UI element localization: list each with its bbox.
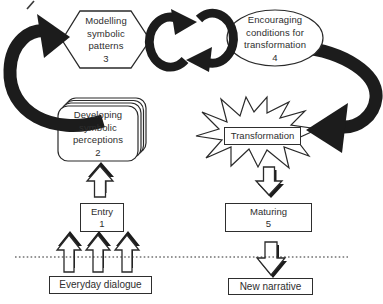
corner-mark [27,1,34,9]
label-line: perceptions [58,134,138,147]
entry-number: 1 [81,218,123,230]
up-arrow-entry-to-developing [87,162,114,197]
label-line: conditions for [227,27,323,40]
label-line: symbolic [66,28,146,41]
new-narrative-box: New narrative [228,278,313,295]
label-line: symbolic [58,122,138,135]
label-line: transformation [227,39,323,52]
developing-node-label: Developing symbolic perceptions 2 [58,109,138,159]
maturing-box: Maturing 5 [225,203,312,232]
label-line: Developing [58,109,138,122]
modelling-node-label: Modelling symbolic patterns 3 [66,15,146,65]
entry-label: Entry [81,206,123,218]
curved-arrow-head-into-transformation [306,103,348,153]
label-number: 3 [66,53,146,66]
down-arrow-maturing-to-new-narrative [257,242,287,278]
label-line: patterns [66,40,146,53]
label-line: Modelling [66,15,146,28]
process-cycle-diagram: Modelling symbolic patterns 3 Encouragin… [0,0,383,304]
down-arrow-transformation-to-maturing [256,167,284,198]
new-narrative-label: New narrative [240,281,302,293]
up-arrow-3 [115,231,140,272]
everyday-dialogue-label: Everyday dialogue [59,279,141,291]
encouraging-node-label: Encouraging conditions for transformatio… [227,14,323,64]
up-arrow-1 [57,231,82,272]
maturing-number: 5 [226,218,311,230]
transformation-box: Transformation [224,127,301,145]
label-number: 4 [227,52,323,65]
everyday-dialogue-box: Everyday dialogue [49,276,152,294]
transformation-label: Transformation [231,130,295,142]
up-arrows-dialogue-to-entry [57,231,140,272]
label-number: 2 [58,147,138,160]
up-arrow-2 [86,231,111,272]
maturing-label: Maturing [226,206,311,218]
entry-box: Entry 1 [80,203,124,232]
label-line: Encouraging [227,14,323,27]
